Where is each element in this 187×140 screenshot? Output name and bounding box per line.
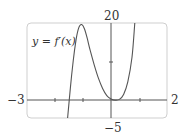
derivative-curve xyxy=(68,23,135,118)
function-label: y = f′(x) xyxy=(32,36,76,47)
y-min-label: −5 xyxy=(104,122,122,134)
x-max-label: 2 xyxy=(171,94,179,106)
y-max-label: 20 xyxy=(104,10,119,22)
chart-svg xyxy=(0,0,187,140)
x-min-label: −3 xyxy=(7,94,25,106)
